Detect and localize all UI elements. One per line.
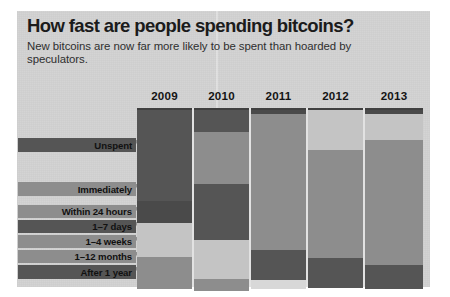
- category-label-bar: 1–4 weeks: [18, 235, 136, 248]
- category-label-text: After 1 year: [80, 267, 132, 278]
- bar-segment: [251, 250, 306, 280]
- bar-segment: [194, 110, 249, 132]
- stacked-column-2009: [137, 108, 192, 289]
- category-label-strip: UnspentImmediatelyWithin 24 hours1–7 day…: [17, 108, 137, 287]
- column-cap-rule: [308, 108, 363, 110]
- category-label-text: 1–12 months: [74, 251, 132, 262]
- year-label-2012: 2012: [308, 86, 363, 106]
- category-label-text: Unspent: [94, 140, 132, 151]
- header: How fast are people spending bitcoins? N…: [27, 16, 427, 66]
- bar-segment: [308, 150, 363, 258]
- bar-segment: [137, 223, 192, 257]
- infographic-root: How fast are people spending bitcoins? N…: [0, 0, 450, 297]
- column-cap-rule: [365, 108, 423, 110]
- stacked-column-2012: [308, 108, 363, 289]
- bar-segment: [251, 114, 306, 250]
- plot-area: UnspentImmediatelyWithin 24 hours1–7 day…: [17, 108, 430, 287]
- year-label-2011: 2011: [251, 86, 306, 106]
- bar-segment: [194, 279, 249, 291]
- category-label-bar: 1–12 months: [18, 250, 136, 263]
- category-label-text: 1–7 days: [92, 221, 132, 232]
- column-cap-rule: [251, 108, 306, 110]
- bar-segment: [137, 110, 192, 201]
- bar-segment: [308, 110, 363, 150]
- bar-segment: [137, 201, 192, 223]
- category-label-bar: Immediately: [18, 182, 136, 196]
- bar-segment: [365, 114, 423, 140]
- year-label-2010: 2010: [194, 86, 249, 106]
- column-cap-rule: [194, 108, 249, 110]
- bar-segment: [365, 140, 423, 265]
- category-label-text: 1–4 weeks: [85, 236, 132, 247]
- bar-segment: [251, 280, 306, 289]
- stacked-column-2013: [365, 108, 423, 289]
- year-label-2009: 2009: [137, 86, 192, 106]
- page-subtitle: New bitcoins are now far more likely to …: [27, 40, 412, 66]
- column-gutter: [249, 108, 251, 287]
- category-label-bar: After 1 year: [18, 265, 136, 279]
- category-label-bar: Within 24 hours: [18, 205, 136, 218]
- chart: 20092010201120122013 UnspentImmediatelyW…: [17, 86, 430, 287]
- bar-segment: [365, 265, 423, 289]
- year-label-2013: 2013: [365, 86, 423, 106]
- category-label-text: Immediately: [78, 184, 132, 195]
- category-label-bar: 1–7 days: [18, 220, 136, 233]
- column-gutter: [363, 108, 365, 287]
- page-title: How fast are people spending bitcoins?: [27, 16, 427, 36]
- column-gutter: [306, 108, 308, 287]
- bar-segment: [194, 240, 249, 279]
- bar-segment: [194, 132, 249, 184]
- bar-segment: [308, 258, 363, 288]
- category-label-text: Within 24 hours: [62, 206, 132, 217]
- stacked-column-2011: [251, 108, 306, 289]
- year-axis: 20092010201120122013: [17, 86, 430, 108]
- bar-segment: [194, 184, 249, 240]
- stacked-column-2010: [194, 108, 249, 289]
- bar-segment: [137, 257, 192, 289]
- column-gutter: [192, 108, 194, 287]
- category-label-bar: Unspent: [18, 138, 136, 152]
- column-cap-rule: [137, 108, 192, 110]
